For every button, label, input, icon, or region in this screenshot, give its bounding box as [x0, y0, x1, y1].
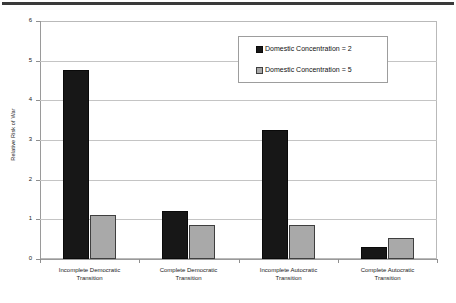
legend-item-series-1: Domestic Concentration = 2 — [256, 45, 352, 53]
gray-square-icon — [256, 67, 263, 74]
legend-label-series-1: Domestic Concentration = 2 — [265, 45, 352, 53]
y-axis-tick-label: 0 — [8, 255, 32, 262]
y-axis-tick-label: 2 — [8, 176, 32, 183]
x-axis-category-label-4: Complete AutocraticTransition — [338, 266, 437, 282]
gridline — [40, 100, 437, 101]
category-label-line: Transition — [239, 274, 338, 282]
y-axis-tick — [36, 100, 40, 101]
legend-item-series-2: Domestic Concentration = 5 — [256, 66, 352, 74]
category-label-line: Complete Democratic — [139, 266, 238, 274]
category-label-line: Complete Autocratic — [338, 266, 437, 274]
y-axis-tick — [36, 180, 40, 181]
bar-series-1-category-1 — [63, 70, 89, 259]
y-axis-tick-label: 5 — [8, 57, 32, 64]
y-axis-tick — [36, 21, 40, 22]
x-axis-tick — [338, 259, 339, 263]
bar-series-2-category-3 — [289, 225, 315, 259]
x-axis-tick — [437, 259, 438, 263]
black-square-icon — [256, 46, 263, 53]
y-axis-tick-label: 6 — [8, 17, 32, 24]
x-axis-category-label-3: Incomplete AutocraticTransition — [239, 266, 338, 282]
bar-series-1-category-2 — [162, 211, 188, 259]
x-axis-category-label-2: Complete DemocraticTransition — [139, 266, 238, 282]
category-label-line: Transition — [139, 274, 238, 282]
gridline — [40, 180, 437, 181]
y-axis-tick — [36, 61, 40, 62]
x-axis-tick — [239, 259, 240, 263]
bar-series-2-category-4 — [388, 238, 414, 259]
y-axis-tick-label: 1 — [8, 215, 32, 222]
category-label-line: Transition — [338, 274, 437, 282]
bar-series-2-category-2 — [189, 225, 215, 259]
category-label-line: Incomplete Autocratic — [239, 266, 338, 274]
chart-legend: Domestic Concentration = 2 Domestic Conc… — [238, 36, 388, 83]
x-axis-tick — [139, 259, 140, 263]
x-axis-tick — [40, 259, 41, 263]
bar-series-1-category-3 — [262, 130, 288, 259]
y-axis-tick — [36, 219, 40, 220]
category-label-line: Transition — [40, 274, 139, 282]
category-label-line: Incomplete Democratic — [40, 266, 139, 274]
x-axis-category-label-1: Incomplete DemocraticTransition — [40, 266, 139, 282]
y-axis-title: Relative Risk of War — [10, 95, 17, 175]
bar-chart-figure: 0123456 Relative Risk of War Incomplete … — [0, 0, 456, 303]
top-divider-rule — [2, 2, 454, 5]
bar-series-2-category-1 — [90, 215, 116, 259]
legend-label-series-2: Domestic Concentration = 5 — [265, 66, 352, 74]
bar-series-1-category-4 — [361, 247, 387, 259]
gridline — [40, 140, 437, 141]
y-axis-tick — [36, 140, 40, 141]
